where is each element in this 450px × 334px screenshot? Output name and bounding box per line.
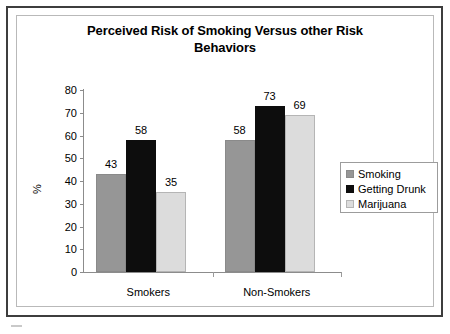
y-axis-tick-mark	[80, 272, 84, 273]
legend-swatch-marijuana-icon	[346, 200, 354, 208]
bar-smokers-getting-drunk	[126, 140, 156, 272]
y-axis-tick-label: 40	[65, 175, 77, 187]
chart-title-line-2: Behaviors	[40, 39, 410, 56]
bar-value-label: 58	[233, 124, 245, 136]
y-axis-tick-label: 60	[65, 130, 77, 142]
x-axis-separator-tick	[213, 272, 214, 277]
legend-item-getting-drunk: Getting Drunk	[346, 182, 437, 196]
bar-non-smokers-getting-drunk	[255, 106, 285, 272]
bar-non-smokers-smoking	[225, 140, 255, 272]
legend-swatch-smoking-icon	[346, 170, 354, 178]
x-axis-end-tick	[341, 272, 342, 277]
y-axis-tick-mark	[80, 90, 84, 91]
bar-value-label: 43	[105, 158, 117, 170]
scan-artifact-mark	[11, 325, 22, 327]
bar-non-smokers-marijuana	[285, 115, 315, 272]
chart-screenshot: Perceived Risk of Smoking Versus other R…	[0, 0, 450, 334]
plot-area: 01020304050607080 435835587369	[84, 90, 341, 272]
legend-swatch-getting-drunk-icon	[346, 185, 354, 193]
bar-smokers-smoking	[96, 174, 126, 272]
y-axis-tick-label: 50	[65, 152, 77, 164]
y-axis-title: %	[31, 184, 43, 194]
y-axis-tick-mark	[80, 158, 84, 159]
y-axis-tick-mark	[80, 136, 84, 137]
y-axis-tick-label: 20	[65, 221, 77, 233]
y-axis-tick-label: 10	[65, 243, 77, 255]
y-axis-tick-mark	[80, 204, 84, 205]
y-axis-tick-label: 30	[65, 198, 77, 210]
bar-value-label: 58	[135, 124, 147, 136]
legend-label-smoking: Smoking	[358, 168, 401, 180]
legend-item-smoking: Smoking	[346, 167, 437, 181]
y-axis-tick-label: 0	[71, 266, 77, 278]
bar-value-label: 35	[165, 176, 177, 188]
chart-legend: Smoking Getting Drunk Marijuana	[340, 162, 438, 213]
chart-title-line-1: Perceived Risk of Smoking Versus other R…	[40, 22, 410, 39]
bar-smokers-marijuana	[156, 192, 186, 272]
y-axis-tick-mark	[80, 249, 84, 250]
bar-value-label: 69	[293, 99, 305, 111]
x-axis-category-label: Non-Smokers	[243, 286, 310, 298]
legend-label-marijuana: Marijuana	[358, 198, 406, 210]
legend-label-getting-drunk: Getting Drunk	[358, 183, 426, 195]
bar-value-label: 73	[263, 90, 275, 102]
chart-title: Perceived Risk of Smoking Versus other R…	[40, 22, 410, 56]
legend-item-marijuana: Marijuana	[346, 197, 437, 211]
y-axis-tick-label: 80	[65, 84, 77, 96]
y-axis-tick-mark	[80, 181, 84, 182]
x-axis-category-label: Smokers	[127, 286, 170, 298]
y-axis-tick-mark	[80, 113, 84, 114]
y-axis-tick-mark	[80, 227, 84, 228]
y-axis-tick-label: 70	[65, 107, 77, 119]
